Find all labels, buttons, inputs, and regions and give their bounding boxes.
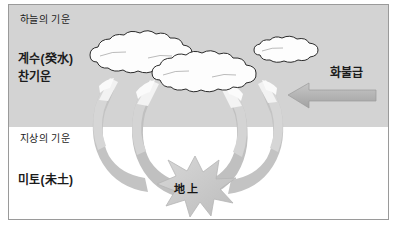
- sky-region-label: 하늘의 기운: [20, 14, 70, 26]
- label-fire-energy: 화불급: [330, 67, 364, 81]
- diagram-canvas: 하늘의 기운 계수(癸水) 찬기운 지상의 기운 미토(未土) 화불급 地上: [0, 0, 397, 227]
- label-ground-center: 地上: [174, 180, 200, 196]
- ground-region-label: 지상의 기운: [20, 133, 70, 145]
- label-gyesu-water: 계수(癸水): [18, 53, 73, 67]
- label-mito-earth: 미토(未土): [18, 174, 73, 188]
- label-cold-energy: 찬기운: [18, 71, 52, 85]
